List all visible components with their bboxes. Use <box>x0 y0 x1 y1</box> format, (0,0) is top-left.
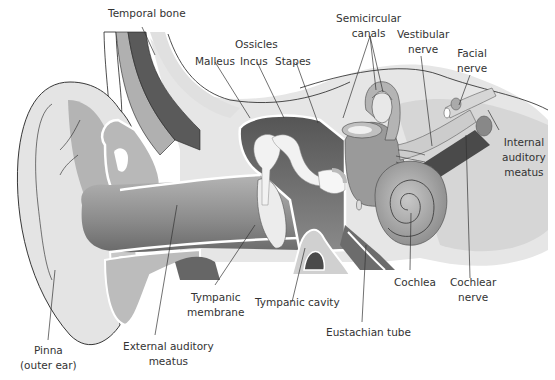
label-line: canals <box>336 26 401 41</box>
label-line: Vestibular <box>397 27 449 42</box>
label-malleus: Malleus <box>195 54 235 69</box>
label-tympanic-membrane: Tympanic membrane <box>187 290 244 320</box>
label-semicircular-canals: Semicircular canals <box>336 11 401 41</box>
label-line: membrane <box>187 305 244 320</box>
label-internal-auditory-meatus: Internal auditory meatus <box>502 135 546 180</box>
label-facial-nerve: Facial nerve <box>457 46 487 76</box>
label-line: meatus <box>123 354 214 369</box>
label-line: meatus <box>502 165 546 180</box>
label-line: (outer ear) <box>20 358 77 373</box>
label-stapes: Stapes <box>275 54 311 69</box>
label-incus: Incus <box>240 54 268 69</box>
label-external-auditory-meatus: External auditory meatus <box>123 339 214 369</box>
label-temporal-bone: Temporal bone <box>108 6 186 21</box>
label-ossicles: Ossicles <box>235 37 278 52</box>
label-line: Semicircular <box>336 11 401 26</box>
label-line: External auditory <box>123 339 214 354</box>
label-line: nerve <box>450 290 496 305</box>
label-eustachian-tube: Eustachian tube <box>326 325 411 340</box>
label-line: nerve <box>457 61 487 76</box>
label-line: Tympanic <box>187 290 244 305</box>
label-vestibular-nerve: Vestibular nerve <box>397 27 449 57</box>
label-cochlea: Cochlea <box>394 275 436 290</box>
label-cochlear-nerve: Cochlear nerve <box>450 275 496 305</box>
label-line: Cochlear <box>450 275 496 290</box>
label-line: auditory <box>502 150 546 165</box>
label-line: Pinna <box>20 343 77 358</box>
label-pinna: Pinna (outer ear) <box>20 343 77 373</box>
label-line: Facial <box>457 46 487 61</box>
label-line: Internal <box>502 135 546 150</box>
label-tympanic-cavity: Tympanic cavity <box>255 295 340 310</box>
label-line: nerve <box>397 42 449 57</box>
